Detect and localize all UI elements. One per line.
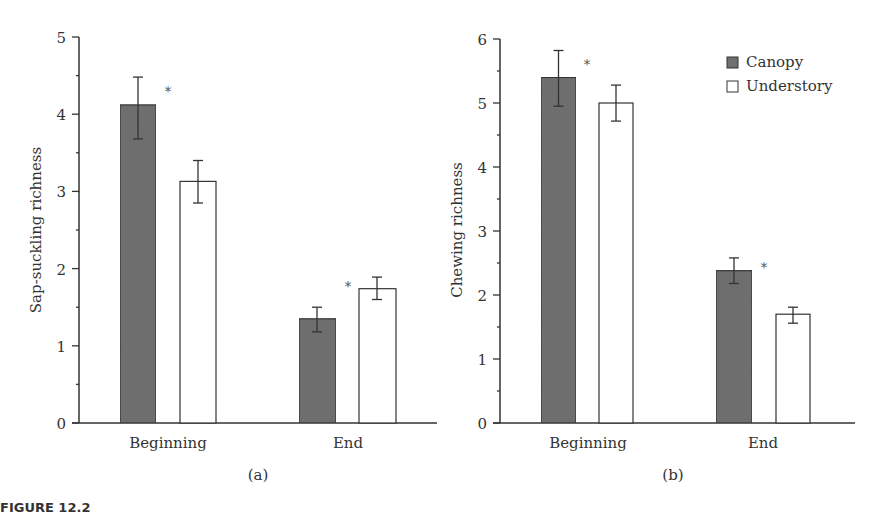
legend-label-canopy: Canopy: [746, 53, 804, 71]
bar-canopy-beginning: [120, 105, 156, 423]
significance-star: *: [345, 278, 352, 294]
bar-understory-beginning: [180, 181, 216, 423]
x-category-label: Beginning: [129, 434, 207, 452]
y-tick-label: 0: [477, 415, 487, 433]
y-tick-label: 4: [477, 159, 487, 177]
y-ticks: [493, 39, 500, 423]
y-tick-label: 3: [56, 183, 66, 201]
x-category-label: End: [333, 434, 364, 452]
bar-understory-beginning: [599, 103, 633, 423]
y-tick-label: 1: [56, 338, 66, 356]
panel-b: 0 1 2 3 4 5 6 Chewing richness * * Begin…: [448, 31, 855, 484]
bar-canopy-beginning: [541, 77, 576, 423]
y-axis-title: Chewing richness: [448, 162, 466, 298]
y-axis-title: Sap-suckling richness: [27, 147, 45, 313]
legend-swatch-canopy: [727, 57, 738, 68]
y-tick-label: 5: [477, 95, 487, 113]
y-tick-label: 6: [477, 31, 487, 49]
panel-label: (a): [248, 466, 269, 484]
bar-canopy-end: [299, 319, 336, 423]
y-tick-label: 4: [56, 106, 66, 124]
significance-star: *: [584, 56, 591, 72]
bar-understory-end: [359, 289, 396, 423]
significance-star: *: [165, 83, 172, 99]
legend-label-understory: Understory: [746, 77, 833, 95]
legend: Canopy Understory: [727, 53, 833, 95]
y-tick-label: 2: [56, 261, 66, 279]
y-tick-label: 5: [56, 29, 66, 47]
y-tick-label: 3: [477, 223, 487, 241]
x-category-label: End: [748, 434, 779, 452]
legend-swatch-understory: [727, 81, 738, 92]
bar-understory-end: [776, 314, 810, 423]
y-tick-label: 1: [477, 351, 487, 369]
significance-star: *: [761, 259, 768, 275]
x-category-label: Beginning: [549, 434, 627, 452]
panel-label: (b): [662, 466, 683, 484]
bar-canopy-end: [716, 271, 752, 423]
y-tick-label: 0: [56, 415, 66, 433]
figure-caption: FIGURE 12.2: [0, 500, 90, 515]
panel-a: 0 1 2 3 4 5 Sap-suckling richness * * Be…: [27, 29, 437, 484]
y-tick-label: 2: [477, 287, 487, 305]
y-ticks: [72, 37, 79, 423]
